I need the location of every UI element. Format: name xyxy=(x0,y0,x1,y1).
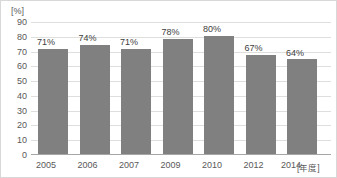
x-tick-2005: 2005 xyxy=(23,161,69,170)
bar-value-label-2010: 80% xyxy=(189,25,235,34)
y-tick-30: 30 xyxy=(3,107,27,116)
bar-chart-figure: [%] 90 80 70 60 50 40 30 20 10 0 xyxy=(0,0,337,178)
bar-2010[interactable] xyxy=(204,36,234,154)
bar-value-label-2005: 71% xyxy=(23,38,69,47)
bar-2009[interactable] xyxy=(163,39,193,154)
y-axis-unit-label: [%] xyxy=(11,6,24,16)
y-tick-60: 60 xyxy=(3,62,27,71)
bar-value-label-2009: 78% xyxy=(148,28,194,37)
y-tick-90: 90 xyxy=(3,18,27,27)
x-axis-unit-label: [年度] xyxy=(297,161,320,173)
bar-2005[interactable] xyxy=(38,49,68,154)
bar-value-label-2006: 74% xyxy=(65,34,111,43)
bar-value-label-2014: 64% xyxy=(272,49,318,58)
bar-value-label-2012: 67% xyxy=(231,44,277,53)
x-tick-2009: 2009 xyxy=(148,161,194,170)
x-tick-2007: 2007 xyxy=(106,161,152,170)
gridline-90 xyxy=(31,22,331,23)
bar-2006[interactable] xyxy=(80,45,110,154)
y-tick-50: 50 xyxy=(3,77,27,86)
x-axis-baseline xyxy=(31,154,331,155)
bar-2012[interactable] xyxy=(246,55,276,154)
bar-2014[interactable] xyxy=(287,59,317,154)
x-tick-2010: 2010 xyxy=(189,161,235,170)
bar-value-label-2007: 71% xyxy=(106,38,152,47)
y-tick-0: 0 xyxy=(3,151,27,160)
y-tick-20: 20 xyxy=(3,121,27,130)
y-tick-10: 10 xyxy=(3,136,27,145)
bar-2007[interactable] xyxy=(121,49,151,154)
x-tick-2006: 2006 xyxy=(65,161,111,170)
y-tick-40: 40 xyxy=(3,92,27,101)
y-tick-70: 70 xyxy=(3,48,27,57)
